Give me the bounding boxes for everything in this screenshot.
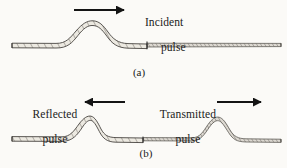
panel-a-tag: (a)	[119, 66, 159, 78]
incident-pulse-label-line2: pulse	[145, 41, 186, 54]
incident-pulse-label-line1: Incident	[145, 16, 183, 28]
transmitted-pulse-label-line1: Transmitted	[160, 108, 216, 120]
heavy-rope-a	[12, 21, 147, 49]
panel-b-tag: (b)	[126, 147, 166, 159]
transmitted-pulse-label-line2: pulse	[176, 133, 201, 145]
incident-pulse-label: Incident pulse	[133, 3, 203, 66]
wave-pulse-figure: Incident pulse Reflected pulse Transmitt…	[0, 0, 287, 168]
reflected-pulse-label-line1: Reflected	[32, 108, 77, 120]
reflected-pulse-label-line2: pulse	[43, 133, 68, 145]
reflected-pulse-label: Reflected pulse	[18, 95, 80, 158]
